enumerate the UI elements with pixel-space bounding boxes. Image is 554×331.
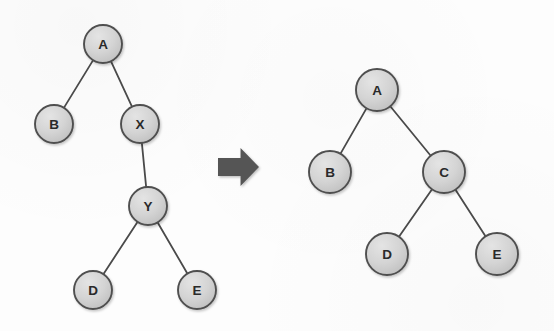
edge-A-X	[111, 60, 133, 107]
edge-A-B	[340, 107, 367, 154]
node-circle	[74, 271, 112, 309]
edge-C-D	[398, 188, 432, 237]
node-D-before[interactable]: D	[74, 271, 112, 309]
node-circle	[356, 69, 398, 111]
edge-Y-D	[103, 221, 138, 275]
node-A-before[interactable]: A	[84, 25, 122, 63]
before-tree: A B X Y D	[35, 25, 216, 309]
node-circle	[129, 187, 167, 225]
node-E-before[interactable]: E	[178, 271, 216, 309]
node-C-after[interactable]: C	[423, 151, 465, 193]
node-circle	[423, 151, 465, 193]
node-circle	[309, 151, 351, 193]
node-Y-before[interactable]: Y	[129, 187, 167, 225]
node-E-after[interactable]: E	[476, 233, 518, 275]
after-tree-nodes: A B C D E	[309, 69, 518, 275]
node-circle	[366, 233, 408, 275]
edge-A-B	[63, 59, 93, 108]
node-B-before[interactable]: B	[35, 105, 73, 143]
node-D-after[interactable]: D	[366, 233, 408, 275]
node-circle	[84, 25, 122, 63]
edge-Y-E	[157, 222, 188, 275]
diagram-canvas: A B X Y D	[0, 0, 554, 331]
before-tree-nodes: A B X Y D	[35, 25, 216, 309]
edge-C-E	[455, 189, 486, 237]
right-arrow-icon	[218, 148, 259, 186]
node-circle	[35, 105, 73, 143]
before-tree-edges	[63, 59, 188, 275]
node-circle	[121, 105, 159, 143]
node-A-after[interactable]: A	[356, 69, 398, 111]
node-circle	[178, 271, 216, 309]
node-B-after[interactable]: B	[309, 151, 351, 193]
node-X-before[interactable]: X	[121, 105, 159, 143]
edge-A-C	[390, 105, 432, 156]
transform-arrow	[218, 148, 259, 186]
tree-diagram: A B X Y D	[0, 0, 554, 331]
after-tree: A B C D E	[309, 69, 518, 275]
node-circle	[476, 233, 518, 275]
edge-X-Y	[142, 142, 147, 188]
